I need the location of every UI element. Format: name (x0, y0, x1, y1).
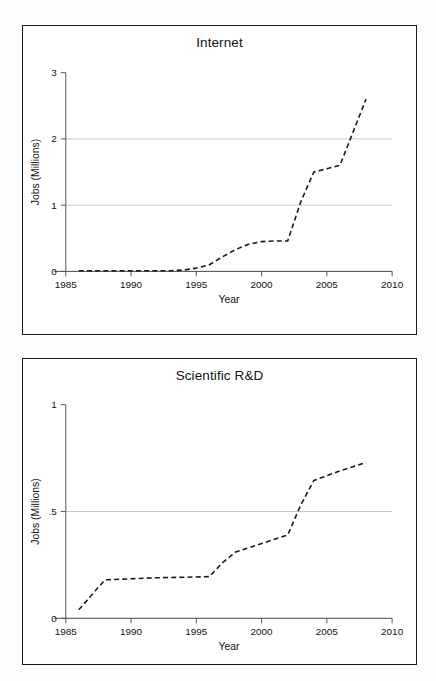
x-axis-title: Year (218, 641, 240, 652)
x-tick-label: 1990 (120, 279, 143, 290)
plot-area-internet: 0123198519901995200020052010YearJobs (Mi… (23, 26, 416, 334)
x-tick-label: 2010 (381, 626, 404, 637)
plot-area-scientific-rnd: 0.51198519901995200020052010YearJobs (Mi… (23, 359, 416, 664)
data-series-line (79, 462, 366, 609)
y-tick-label: 2 (51, 133, 57, 144)
x-tick-label: 1985 (55, 626, 78, 637)
y-tick-label: 0 (51, 266, 57, 277)
chart-panel-scientific-rnd: Scientific R&D 0.51198519901995200020052… (22, 358, 417, 665)
y-tick-label: 1 (51, 200, 57, 211)
x-tick-label: 2005 (316, 279, 339, 290)
x-tick-label: 1985 (55, 279, 78, 290)
x-tick-label: 2005 (316, 626, 339, 637)
y-tick-label: 3 (51, 67, 57, 78)
x-tick-label: 2000 (251, 626, 274, 637)
x-tick-label: 1990 (120, 626, 143, 637)
y-axis-title: Jobs (Millions) (30, 478, 41, 545)
plot-svg-internet: 0123198519901995200020052010YearJobs (Mi… (23, 26, 416, 334)
plot-svg-scientific-rnd: 0.51198519901995200020052010YearJobs (Mi… (23, 359, 416, 664)
x-tick-label: 2000 (251, 279, 274, 290)
x-tick-label: 1995 (185, 626, 208, 637)
x-axis-title: Year (218, 294, 240, 305)
y-tick-label: .5 (49, 506, 58, 517)
y-axis-title: Jobs (Millions) (30, 139, 41, 206)
figure-canvas: Internet 0123198519901995200020052010Yea… (0, 0, 436, 681)
data-series-line (79, 99, 366, 271)
x-tick-label: 1995 (185, 279, 208, 290)
chart-panel-internet: Internet 0123198519901995200020052010Yea… (22, 25, 417, 335)
x-tick-label: 2010 (381, 279, 404, 290)
y-tick-label: 1 (51, 399, 57, 410)
y-tick-label: 0 (51, 613, 57, 624)
